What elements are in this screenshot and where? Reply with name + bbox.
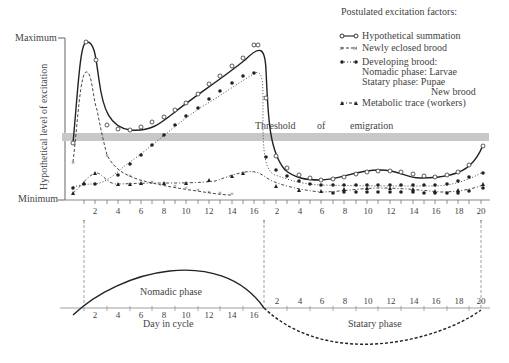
svg-text:×: × [150,178,154,186]
svg-text:2: 2 [93,206,98,216]
legend-summation: Hypothetical summation [362,30,461,41]
chart-figure: Postulated excitation factors: Hypotheti… [0,0,509,363]
svg-text:16: 16 [432,206,442,216]
svg-text:18: 18 [455,296,465,306]
svg-text:8: 8 [343,296,348,306]
svg-text:2: 2 [275,296,280,306]
svg-text:×: × [71,159,75,167]
top-ticks [84,200,481,204]
svg-text:16: 16 [250,206,260,216]
y-max-label: Maximum [15,32,57,43]
svg-text:8: 8 [162,310,167,320]
svg-text:↑: ↑ [262,218,266,226]
open-circle-icon [340,34,344,38]
svg-text:12: 12 [387,296,396,306]
svg-text:×: × [196,186,200,194]
svg-text:×: × [230,190,234,198]
svg-text:10: 10 [182,310,192,320]
svg-text:×: × [353,44,358,53]
legend-newly-eclosed: Newly eclosed brood [362,42,447,53]
svg-text:×: × [218,189,222,197]
series-metabolic [73,172,483,193]
legend: Postulated excitation factors: Hypotheti… [339,6,476,109]
svg-text:10: 10 [182,206,192,216]
svg-text:×: × [128,172,132,180]
threshold-emigration-label: emigration [350,120,393,131]
x-marker-icon: × [339,44,344,53]
arrow-icons: ↑↑↑ [82,218,483,226]
y-min-label: Minimum [18,193,58,204]
svg-text:14: 14 [228,310,238,320]
svg-text:4: 4 [298,206,303,216]
svg-text:12: 12 [205,206,214,216]
svg-text:20: 20 [477,296,487,306]
svg-text:8: 8 [162,206,167,216]
filled-circle-icon [340,60,344,64]
y-axis-title: Hypothetical level of excitation [38,64,49,190]
svg-text:8: 8 [343,206,348,216]
svg-text:20: 20 [477,206,487,216]
svg-text:4: 4 [116,310,121,320]
svg-text:12: 12 [387,206,396,216]
svg-text:14: 14 [410,206,420,216]
svg-text:16: 16 [250,310,260,320]
legend-title: Postulated excitation factors: [341,6,457,17]
svg-text:4: 4 [298,296,303,306]
svg-text:↑: ↑ [479,218,483,226]
svg-text:14: 14 [228,206,238,216]
svg-text:6: 6 [139,310,144,320]
svg-text:6: 6 [320,206,325,216]
threshold-of-label: of [317,120,326,131]
svg-text:14: 14 [410,296,420,306]
top-tick-labels: 2 4 6 8 10 12 14 16 2 4 6 8 10 12 14 16 … [93,206,486,216]
svg-text:10: 10 [364,296,374,306]
svg-text:6: 6 [320,296,325,306]
svg-text:10: 10 [364,206,374,216]
svg-text:12: 12 [205,310,214,320]
threshold-label: Threshold [255,120,296,131]
svg-text:4: 4 [116,206,121,216]
threshold-band [62,133,489,141]
svg-text:2: 2 [275,206,280,216]
svg-text:16: 16 [432,296,442,306]
svg-text:↑: ↑ [82,218,86,226]
svg-text:×: × [184,184,188,192]
statary-phase-label: Statary phase [348,318,402,329]
svg-text:6: 6 [139,206,144,216]
svg-text:×: × [207,188,211,196]
legend-metabolic: Metabolic trace (workers) [362,97,466,109]
nomadic-phase-label: Nomadic phase [140,286,202,297]
svg-text:18: 18 [455,206,465,216]
svg-text:×: × [105,152,109,160]
svg-text:2: 2 [93,310,98,320]
legend-new-brood: New brood [431,86,476,97]
